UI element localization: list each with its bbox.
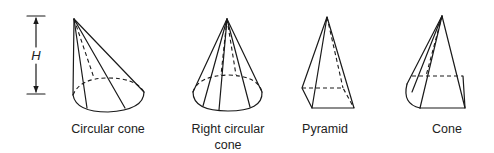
cone-curved-base <box>406 84 420 108</box>
pyramid-front-edge <box>312 17 327 108</box>
height-label: H <box>31 48 41 63</box>
pyramid-hidden-edge <box>327 17 343 88</box>
right-cone-hidden-generator-1 <box>221 19 227 75</box>
right-cone-base-back <box>193 75 262 92</box>
circular-cone-label: Circular cone <box>71 122 145 136</box>
circular-cone-left-edge <box>73 19 74 95</box>
circular-cone-generator-1 <box>74 19 87 108</box>
right-cone-right-edge <box>227 19 262 92</box>
cone-hidden-generator <box>426 16 442 76</box>
pyramid-hidden-base <box>302 88 354 108</box>
cone-left-edge <box>407 16 442 84</box>
right-circular-cone-label-line1: Right circular <box>192 122 265 136</box>
pyramid-label: Pyramid <box>302 122 348 136</box>
circular-cone-base-front <box>73 92 144 112</box>
cone-right-edge <box>442 16 465 108</box>
right-circular-cone-label-line2: cone <box>214 138 241 152</box>
solids-diagram: H Circular cone Right circular cone Pyra… <box>0 0 494 153</box>
right-cone-generator-3 <box>227 19 250 107</box>
circular-cone-figure: Circular cone <box>71 19 145 136</box>
height-dimension: H <box>27 16 45 94</box>
cone-figure: Cone <box>406 16 465 136</box>
right-cone-base-front <box>193 92 262 111</box>
cone-label: Cone <box>432 122 462 136</box>
pyramid-figure: Pyramid <box>302 17 354 136</box>
pyramid-front-faces <box>302 17 354 108</box>
right-circular-cone-figure: Right circular cone <box>192 19 265 152</box>
